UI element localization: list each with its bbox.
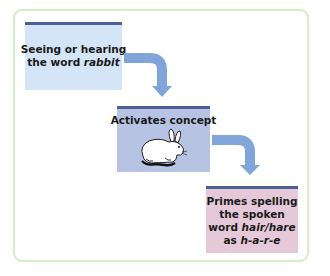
step-activates-concept: Activates concept (117, 106, 210, 172)
step-1-text: the word (27, 56, 84, 68)
step-3-line-4: as h-a-r-e (224, 234, 281, 247)
step-1-italic-word: rabbit (84, 56, 120, 68)
step-1-line-1: Seeing or hearing (21, 43, 127, 56)
curved-arrow-down-icon (122, 50, 182, 100)
step-3-line-2: the spoken (219, 208, 285, 221)
step-1-line-2: the word rabbit (27, 56, 119, 69)
step-3-italic-word: hair/hare (242, 221, 296, 233)
step-2-label: Activates concept (111, 114, 217, 127)
rabbit-illustration-icon (137, 128, 189, 168)
curved-arrow-down-icon (210, 130, 265, 180)
step-3-italic-spelling: h-a-r-e (241, 234, 281, 246)
step-3-text: as (224, 234, 241, 246)
step-seeing-hearing-word: Seeing or hearing the word rabbit (25, 22, 122, 90)
step-primes-spelling: Primes spelling the spoken word hair/har… (206, 186, 298, 253)
step-3-text: word (208, 221, 241, 233)
step-3-line-1: Primes spelling (206, 195, 297, 208)
step-3-line-3: word hair/hare (208, 221, 295, 234)
